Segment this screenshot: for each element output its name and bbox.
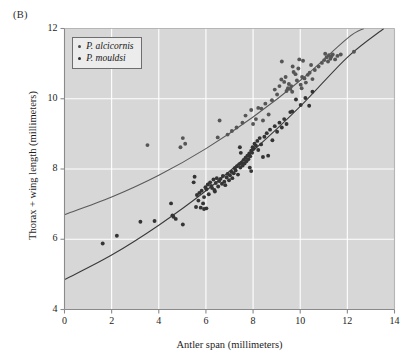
legend-item-alcicornis: P. alcicornis (78, 41, 134, 53)
data-point (216, 185, 220, 189)
data-point (221, 174, 225, 178)
data-point (275, 93, 279, 97)
data-point (239, 151, 243, 155)
data-point (307, 104, 311, 108)
figure-panel-b: (B) Thorax + wing length (millimeters) A… (0, 0, 417, 364)
data-point (226, 133, 230, 137)
data-point (266, 154, 270, 158)
data-point (201, 201, 205, 205)
legend-label: P. alcicornis (86, 41, 133, 53)
x-tick-label: 14 (380, 315, 410, 326)
legend-item-mouldsi: P. mouldsi (78, 53, 134, 65)
data-point (213, 190, 217, 194)
data-point (273, 88, 277, 92)
data-point (204, 206, 208, 210)
data-point (262, 135, 266, 139)
data-point (295, 79, 299, 83)
data-point (236, 173, 240, 177)
data-point (333, 57, 337, 61)
data-point (311, 77, 315, 81)
y-tick-label: 6 (38, 232, 58, 243)
x-tick-label: 4 (144, 315, 174, 326)
data-point (222, 180, 226, 184)
data-point (214, 181, 218, 185)
data-point (265, 131, 269, 135)
data-point (323, 52, 327, 56)
data-point (169, 201, 173, 205)
data-point (294, 72, 298, 76)
data-point (249, 108, 253, 112)
y-axis-label: Thorax + wing length (millimeters) (27, 51, 38, 281)
data-point (254, 144, 258, 148)
data-point (248, 154, 252, 158)
data-point (267, 113, 271, 117)
y-tick-label: 10 (38, 92, 58, 103)
data-point (290, 90, 294, 94)
data-point (280, 60, 284, 64)
data-point (311, 90, 315, 94)
data-point (115, 234, 119, 238)
data-point (284, 75, 288, 79)
data-point (153, 219, 157, 223)
data-point (299, 103, 303, 107)
data-point (261, 119, 265, 123)
data-point (196, 199, 200, 203)
data-point (223, 183, 227, 187)
data-point (309, 63, 313, 67)
x-tick-label: 2 (97, 315, 127, 326)
y-tick-label: 4 (38, 303, 58, 314)
data-point (238, 145, 242, 149)
data-point (234, 168, 238, 172)
data-point (263, 102, 267, 106)
data-point (301, 59, 305, 63)
data-point (250, 151, 254, 155)
data-point (202, 195, 206, 199)
x-axis-label: Antler span (millimeters) (64, 339, 395, 350)
data-point (146, 143, 150, 147)
data-point (294, 98, 298, 102)
data-point (193, 175, 197, 179)
data-point (256, 106, 260, 110)
data-point (290, 109, 294, 113)
data-point (313, 68, 317, 72)
data-point (258, 136, 262, 140)
data-point (291, 64, 295, 68)
data-point (259, 142, 263, 146)
data-point (285, 122, 289, 126)
data-point (216, 135, 220, 139)
data-point (254, 117, 258, 121)
x-tick-label: 10 (285, 315, 315, 326)
legend-marker-icon (78, 45, 81, 48)
data-point (138, 220, 142, 224)
x-tick-label: 0 (50, 315, 80, 326)
data-point (304, 81, 308, 85)
data-point (200, 189, 204, 193)
data-point (282, 117, 286, 121)
x-tick-label: 12 (332, 315, 362, 326)
data-point (289, 84, 293, 88)
data-point (299, 83, 303, 87)
data-point (249, 169, 253, 173)
data-point (230, 176, 234, 180)
data-point (273, 124, 277, 128)
data-point (303, 96, 307, 100)
data-point (194, 205, 198, 209)
data-point (303, 76, 307, 80)
data-point (280, 126, 284, 130)
data-point (235, 126, 239, 130)
data-point (278, 121, 282, 125)
legend: P. alcicornis P. mouldsi (72, 37, 142, 69)
data-point (181, 136, 185, 140)
legend-label: P. mouldsi (86, 53, 125, 65)
legend-marker-icon (78, 57, 81, 60)
y-tick-label: 12 (38, 22, 58, 33)
data-point (256, 148, 260, 152)
data-point (183, 142, 187, 146)
data-point (278, 84, 282, 88)
data-point (297, 57, 301, 61)
data-point (275, 130, 279, 134)
data-point (244, 114, 248, 118)
data-point (230, 129, 234, 133)
data-point (352, 50, 356, 54)
data-point (317, 64, 321, 68)
